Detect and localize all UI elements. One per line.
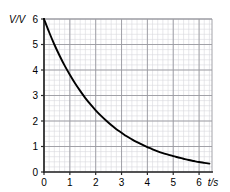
x-tick-label: 3 [119,177,125,188]
x-tick-label: 1 [67,177,73,188]
y-tick-label: 5 [32,39,38,50]
x-tick-label: 2 [93,177,99,188]
y-tick-label: 4 [32,65,38,76]
y-tick-label: 0 [32,167,38,178]
x-tick-label: 4 [145,177,151,188]
x-tick-label: 0 [41,177,47,188]
decay-chart-svg: 0123456 0123456 V/V t/s [0,0,230,192]
chart-figure: 0123456 0123456 V/V t/s [0,0,230,192]
y-tick-label: 1 [32,141,38,152]
x-tick-label: 5 [170,177,176,188]
x-axis-label: t/s [208,177,219,188]
x-tick-label: 6 [196,177,202,188]
y-axis-label: V/V [9,14,26,25]
y-tick-label: 3 [32,90,38,101]
y-tick-label: 2 [32,116,38,127]
y-tick-label: 6 [32,14,38,25]
